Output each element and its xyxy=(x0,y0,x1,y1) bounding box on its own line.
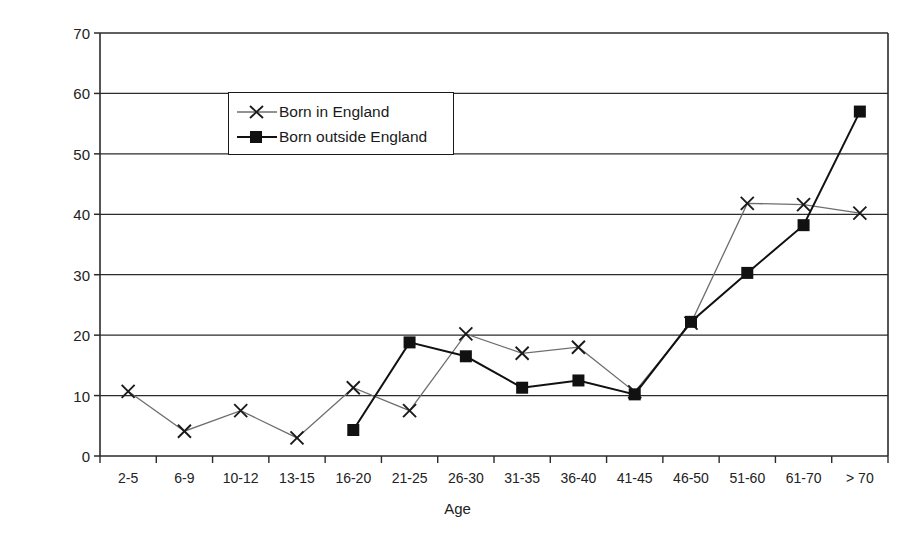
x-tick-label: 16-20 xyxy=(335,470,371,486)
data-point-square xyxy=(516,382,528,394)
legend-label: Born in England xyxy=(279,103,389,121)
x-tick-label: 61-70 xyxy=(786,470,822,486)
data-point-x xyxy=(234,404,247,417)
data-point-square xyxy=(685,316,697,328)
series-line-born-outside-england xyxy=(353,112,860,430)
x-tick-label: 6-9 xyxy=(174,470,194,486)
legend-entry-born-outside-england: Born outside England xyxy=(237,124,443,149)
legend-entry-born-in-england: Born in England xyxy=(237,99,443,124)
x-tick-label: 26-30 xyxy=(448,470,484,486)
legend: Born in England Born outside England xyxy=(228,92,454,155)
x-tick-label: 2-5 xyxy=(118,470,138,486)
x-axis-title: Age xyxy=(0,500,915,517)
x-tick-label: 46-50 xyxy=(673,470,709,486)
data-point-square xyxy=(741,267,753,279)
data-point-square xyxy=(572,374,584,386)
x-marker-icon xyxy=(237,102,277,122)
data-point-x xyxy=(853,207,866,220)
x-tick-label: 31-35 xyxy=(504,470,540,486)
series-line-born-in-england xyxy=(128,203,860,438)
data-point-x xyxy=(459,327,472,340)
x-tick-label: 10-12 xyxy=(223,470,259,486)
data-point-square xyxy=(347,424,359,436)
data-point-square xyxy=(629,388,641,400)
data-point-square xyxy=(798,219,810,231)
data-point-x xyxy=(403,404,416,417)
x-tick-label: 21-25 xyxy=(392,470,428,486)
data-point-square xyxy=(460,350,472,362)
x-tick-label: 51-60 xyxy=(729,470,765,486)
data-point-x xyxy=(178,425,191,438)
legend-label: Born outside England xyxy=(279,128,427,146)
x-tick-label: 41-45 xyxy=(617,470,653,486)
chart-container: Absolute Percentage 010203040506070 2-56… xyxy=(0,0,915,542)
square-marker-icon xyxy=(237,127,277,147)
data-point-x xyxy=(347,381,360,394)
data-point-x xyxy=(291,431,304,444)
plot-area xyxy=(0,0,915,542)
x-tick-label: > 70 xyxy=(846,470,874,486)
x-tick-label: 36-40 xyxy=(561,470,597,486)
x-tick-label: 13-15 xyxy=(279,470,315,486)
data-point-square xyxy=(404,336,416,348)
data-point-square xyxy=(854,106,866,118)
